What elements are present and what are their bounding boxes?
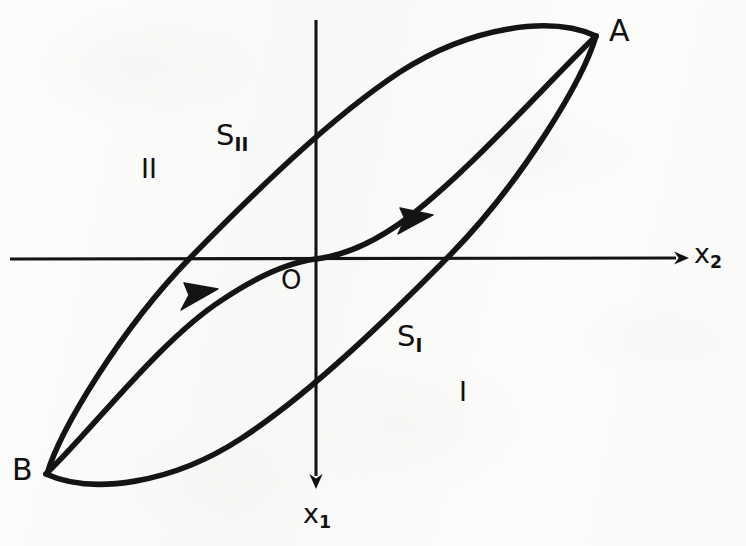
region-label-I: I bbox=[459, 378, 467, 405]
switching-curve-SI-subscript: I bbox=[415, 335, 422, 356]
switching-curve-label-SI: SI bbox=[397, 322, 423, 355]
outer-loop-upper-branch bbox=[47, 26, 596, 474]
outer-hysteresis-loop bbox=[46, 26, 596, 484]
x1-axis-label: x1 bbox=[303, 500, 331, 531]
point-label-B: B bbox=[12, 455, 33, 485]
s-curve-path bbox=[46, 36, 596, 474]
x2-axis-label-subscript: 2 bbox=[710, 252, 722, 272]
x2-axis-line bbox=[10, 258, 676, 259]
x2-axis-label: x2 bbox=[694, 240, 722, 271]
point-label-A: A bbox=[609, 16, 630, 46]
x1-axis-label-letter: x bbox=[303, 498, 319, 529]
switching-curve-label-SII: SII bbox=[216, 121, 249, 154]
figure-root: A B O II I SII SI x2 x1 bbox=[0, 0, 746, 546]
origin-label: O bbox=[281, 267, 301, 293]
switching-curve-SI-letter: S bbox=[397, 319, 415, 353]
x2-axis-label-letter: x bbox=[694, 238, 710, 269]
switching-curve-SII-subscript: II bbox=[234, 134, 248, 155]
s-switching-curve bbox=[46, 36, 596, 474]
region-label-II: II bbox=[141, 155, 157, 182]
phase-portrait-drawing bbox=[0, 0, 746, 546]
x1-axis-label-subscript: 1 bbox=[319, 512, 331, 532]
switching-curve-SII-letter: S bbox=[216, 118, 234, 152]
